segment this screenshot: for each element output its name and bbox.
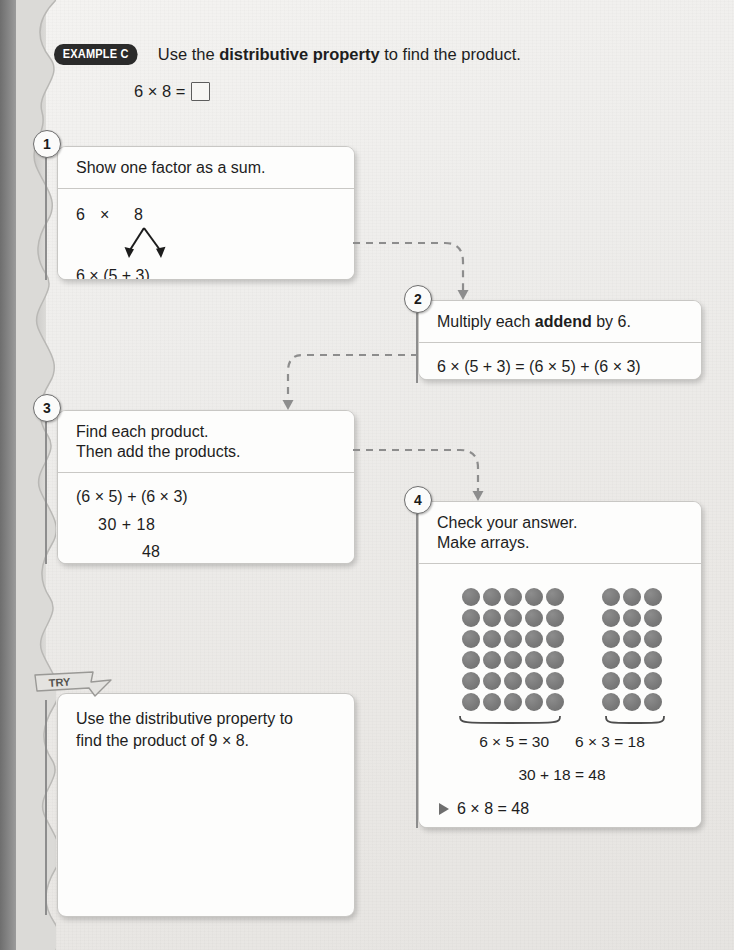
array-right-dot [644,672,662,690]
step-1-result: 6 × (5 + 3) [76,264,340,280]
step-4-badge: 4 [404,486,432,514]
array-left-dot [504,588,522,606]
step-1-card: Show one factor as a sum. 6 × 8 6 × (5 +… [57,146,355,280]
array-left-dot [483,630,501,648]
array-left-dot [525,651,543,669]
step-3-line2: 30 + 18 [76,513,340,536]
array-right-dot [602,588,620,606]
step-2-title-keyword: addend [535,313,592,330]
array-left-label: 6 × 5 = 30 [479,731,549,753]
step-3-title-line2: Then add the products. [76,442,340,462]
step-3-body: (6 × 5) + (6 × 3) 30 + 18 48 [58,473,354,564]
array-left-dot [504,693,522,711]
step-1-body: 6 × 8 6 × (5 + 3) [58,189,354,280]
array-left-6x5 [462,588,564,711]
array-braces [437,715,687,728]
branch-arrows-icon [82,226,202,266]
try-prompt-line1: Use the distributive property to [76,708,338,730]
brace-left-icon [456,715,564,728]
step-2-title: Multiply each addend by 6. [419,301,701,343]
array-right-dot [623,630,641,648]
example-equation: 6 × 8 = [134,82,210,101]
array-left-dot [462,672,480,690]
array-right-dot [602,651,620,669]
array-left-dot [462,693,480,711]
step-1-times-symbol: × [100,203,134,226]
array-left-dot [504,651,522,669]
step-1-badge: 1 [33,130,61,158]
instruction-post: to find the product. [380,45,521,63]
array-left-dot [504,672,522,690]
array-right-dot [623,588,641,606]
step-1-title: Show one factor as a sum. [58,147,354,189]
array-right-dot [644,609,662,627]
array-right-dot [623,693,641,711]
step-1-branch-arrows [82,226,202,266]
array-left-dot [483,693,501,711]
step-2-body: 6 × (5 + 3) = (6 × 5) + (6 × 3) [419,343,701,380]
array-left-dot [546,630,564,648]
array-left-dot [462,651,480,669]
step-2-card: Multiply each addend by 6. 6 × (5 + 3) =… [418,300,702,380]
step-2-title-post: by 6. [592,313,631,330]
step-3-line3: 48 [76,540,340,563]
step-1-factor-row: 6 × 8 [76,203,340,226]
array-right-dot [602,630,620,648]
array-left-dot [483,609,501,627]
step-4-title-line2: Make arrays. [437,533,687,553]
step-4-final-row: 6 × 8 = 48 [437,797,687,820]
try-stem [45,700,47,915]
array-left-dot [546,672,564,690]
example-badge: EXAMPLE C [54,44,137,65]
step-1-factor-left: 6 [76,203,100,226]
array-left-dot [525,609,543,627]
worksheet-page: EXAMPLE C Use the distributive property … [0,0,734,950]
step-3-badge: 3 [33,394,61,422]
instruction-pre: Use the [158,45,219,63]
array-right-dot [644,588,662,606]
array-right-dot [623,609,641,627]
step-3-stem [45,420,47,564]
array-right-dot [602,693,620,711]
array-right-dot [644,651,662,669]
brace-right-icon [602,715,668,728]
array-labels: 6 × 5 = 30 6 × 3 = 18 [437,731,687,753]
array-left-dot [462,588,480,606]
array-left-dot [546,651,564,669]
step-4-stem [416,512,418,828]
array-left-dot [546,609,564,627]
step-2-badge: 2 [404,285,432,313]
array-left-dot [462,609,480,627]
answer-box-icon[interactable] [191,82,210,101]
step-4-title-line1: Check your answer. [437,513,687,533]
array-left-dot [525,693,543,711]
equation-text: 6 × 8 = [134,82,185,101]
step-3-title-line1: Find each product. [76,422,340,442]
array-right-dot [623,672,641,690]
array-right-6x3 [602,588,662,711]
step-2-result: 6 × (5 + 3) = (6 × 5) + (6 × 3) [437,358,641,375]
step-1-stem [45,156,47,280]
array-left-dot [483,588,501,606]
array-left-dot [525,588,543,606]
array-left-dot [504,630,522,648]
array-right-label: 6 × 3 = 18 [575,731,645,753]
step-3-line1: (6 × 5) + (6 × 3) [76,485,340,508]
try-ribbon-banner: TRY [33,669,125,705]
step-1-factor-right: 8 [134,203,143,226]
array-right-dot [602,609,620,627]
array-left-dot [546,588,564,606]
array-left-dot [483,672,501,690]
step-4-sum-line: 30 + 18 = 48 [437,764,687,786]
example-instruction: Use the distributive property to find th… [158,44,521,65]
step-4-card: Check your answer. Make arrays. 6 × 5 = … [418,501,702,828]
array-right-dot [623,651,641,669]
try-ribbon-label: TRY [48,675,71,689]
triangle-bullet-icon [439,803,449,815]
array-right-dot [644,630,662,648]
try-card[interactable]: Use the distributive property to find th… [57,693,355,917]
array-left-dot [546,693,564,711]
step-4-final-answer: 6 × 8 = 48 [457,797,529,820]
example-header: EXAMPLE C Use the distributive property … [54,44,694,65]
array-left-dot [525,630,543,648]
